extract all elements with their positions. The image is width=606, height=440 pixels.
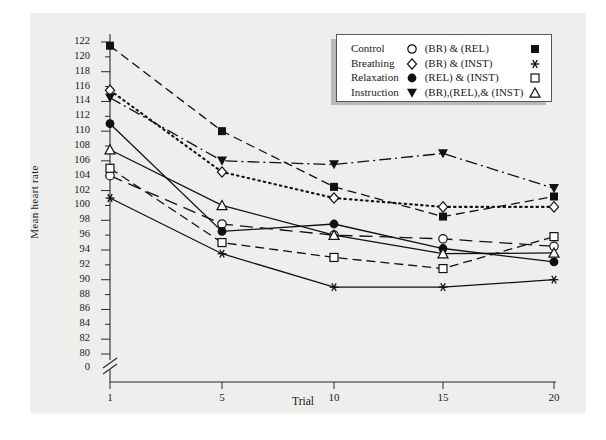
filled-square-icon <box>529 43 541 55</box>
open-square-icon <box>529 72 541 84</box>
marker-filled-circle <box>550 257 559 266</box>
legend-marker <box>399 85 425 99</box>
legend-label: Instruction <box>351 85 399 99</box>
legend-row: Breathing(BR) & (INST) <box>351 56 547 70</box>
open-triangle-up-icon <box>529 87 541 99</box>
open-diamond-icon <box>406 58 418 70</box>
filled-triangle-down-icon <box>406 87 418 99</box>
asterisk-icon <box>529 58 541 70</box>
legend-row: Control(BR) & (REL) <box>351 42 547 56</box>
series-instruction <box>105 93 559 193</box>
marker-filled-triangle-down <box>407 89 417 98</box>
series-relaxation <box>106 119 559 266</box>
marker-open-square <box>106 164 114 172</box>
legend-marker <box>399 42 425 56</box>
marker-filled-circle <box>106 119 115 128</box>
marker-open-square <box>330 253 338 261</box>
marker-asterisk <box>330 283 339 291</box>
marker-open-diamond <box>217 167 226 177</box>
series--rel-inst- <box>106 164 558 272</box>
legend-label: Control <box>351 42 399 56</box>
marker-open-circle <box>218 220 226 228</box>
marker-filled-square <box>550 193 558 201</box>
legend-marker <box>523 56 547 70</box>
marker-open-diamond <box>549 202 558 212</box>
marker-filled-square <box>439 213 447 221</box>
marker-filled-square <box>218 127 226 135</box>
legend-row: Relaxation(REL) & (INST) <box>351 71 547 85</box>
legend-marker <box>523 71 547 85</box>
legend-label: (REL) & (INST) <box>425 71 524 85</box>
legend-label: Breathing <box>351 56 399 70</box>
marker-asterisk <box>218 250 227 258</box>
legend-marker <box>523 85 547 99</box>
marker-asterisk <box>439 283 448 291</box>
marker-open-square <box>218 239 226 247</box>
legend-table: Control(BR) & (REL)Breathing(BR) & (INST… <box>351 42 547 100</box>
marker-open-square <box>531 74 539 82</box>
legend-label: (BR) & (INST) <box>425 56 524 70</box>
chart-legend: Control(BR) & (REL)Breathing(BR) & (INST… <box>336 34 552 102</box>
filled-circle-icon <box>406 72 418 84</box>
marker-open-triangle-up <box>217 200 227 209</box>
marker-filled-circle <box>407 74 416 83</box>
marker-open-triangle-up <box>530 88 540 97</box>
marker-open-diamond <box>438 202 447 212</box>
legend-label: (BR) & (REL) <box>425 42 524 56</box>
legend-marker <box>523 42 547 56</box>
legend-marker <box>399 56 425 70</box>
marker-open-square <box>439 265 447 273</box>
marker-filled-square <box>330 183 338 191</box>
marker-open-square <box>550 233 558 241</box>
marker-open-circle <box>407 45 415 53</box>
figure-container: Mean heart rate Trial 122120118116114112… <box>0 0 606 440</box>
marker-open-diamond <box>329 193 338 203</box>
open-circle-icon <box>406 43 418 55</box>
marker-asterisk <box>550 276 559 284</box>
marker-filled-triangle-down <box>549 184 559 193</box>
legend-label: (BR),(REL),& (INST) <box>425 85 524 99</box>
marker-filled-circle <box>330 220 339 229</box>
marker-filled-square <box>106 42 114 50</box>
legend-marker <box>399 71 425 85</box>
legend-row: Instruction(BR),(REL),& (INST) <box>351 85 547 99</box>
marker-asterisk <box>531 60 540 68</box>
legend-label: Relaxation <box>351 71 399 85</box>
marker-open-diamond <box>407 59 416 69</box>
marker-filled-circle <box>218 227 227 236</box>
marker-open-circle <box>439 235 447 243</box>
marker-filled-square <box>531 45 539 53</box>
